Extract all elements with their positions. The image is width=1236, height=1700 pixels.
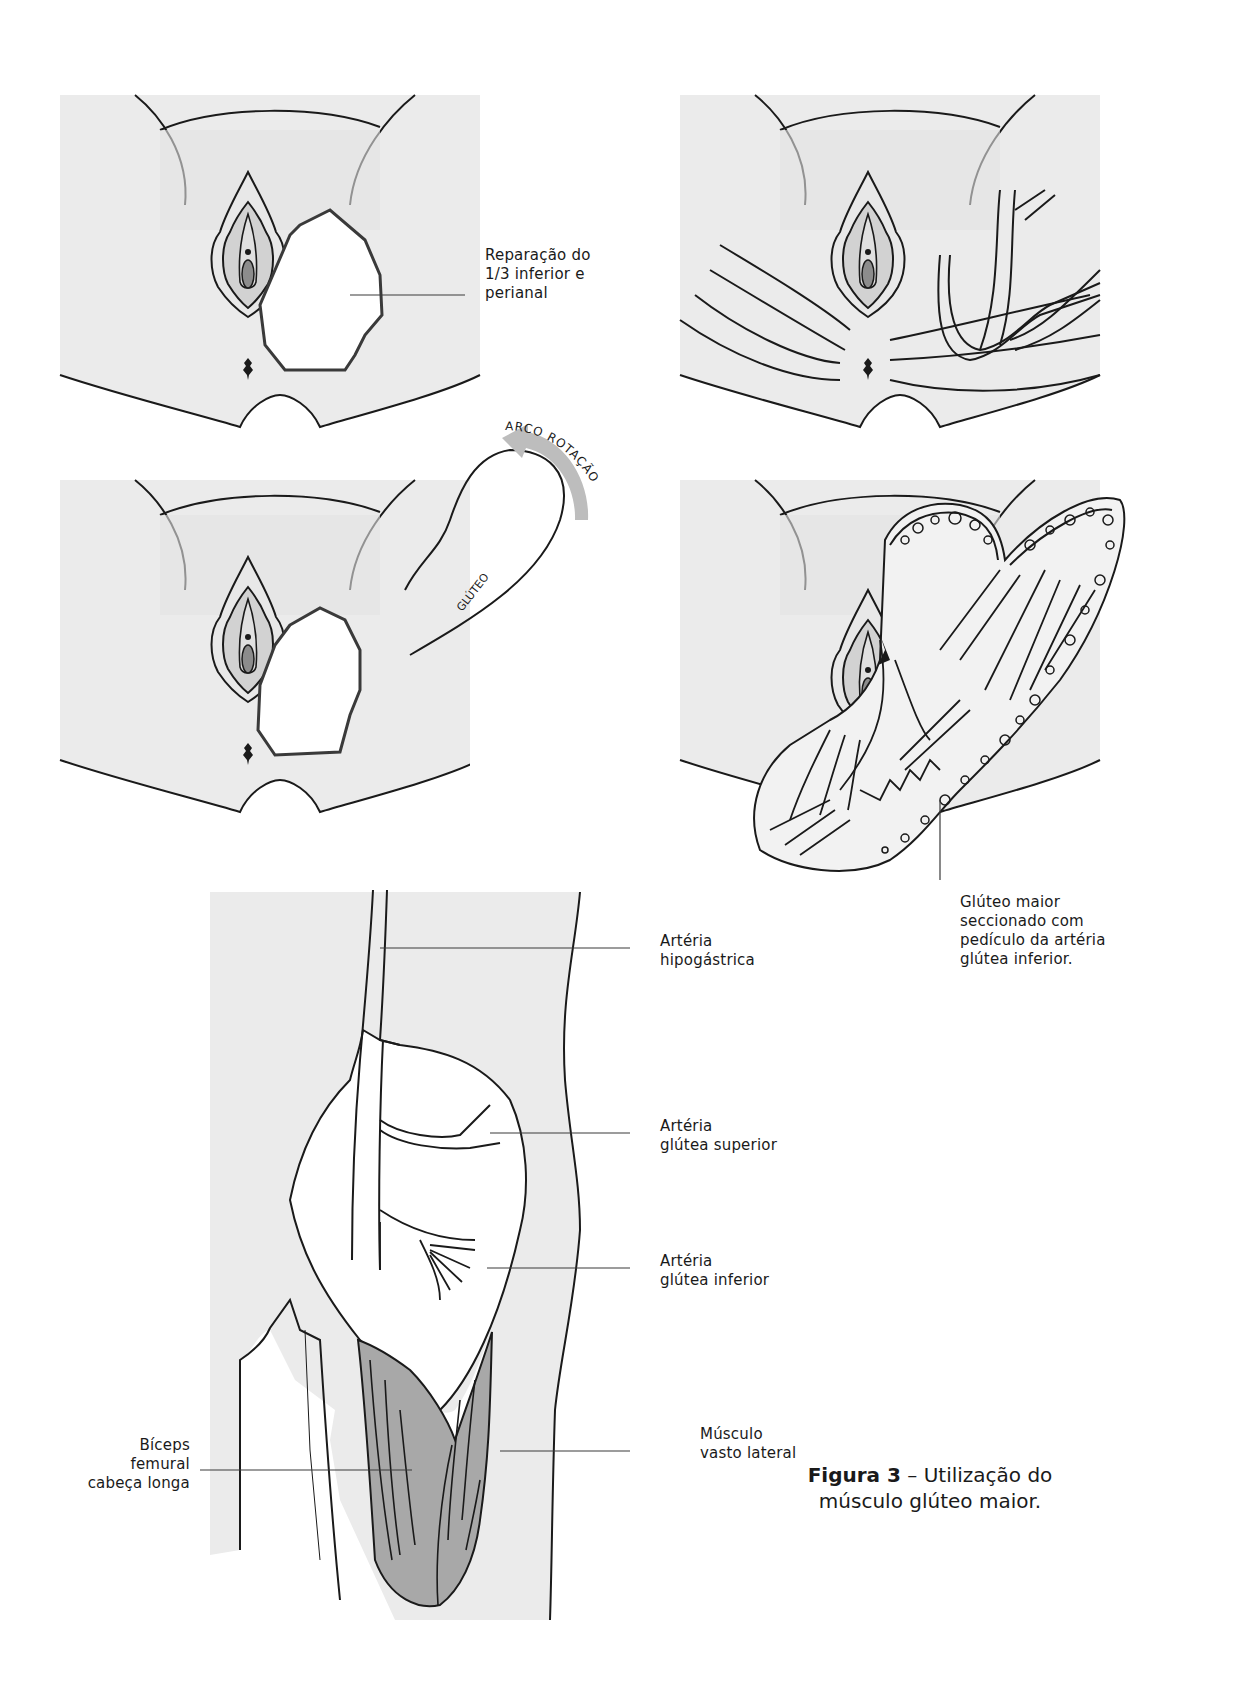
panel-3 bbox=[60, 480, 480, 815]
panel-5 bbox=[200, 890, 630, 1620]
figure-caption: Figura 3 – Utilização do músculo glúteo … bbox=[760, 1462, 1100, 1514]
panel-2 bbox=[680, 95, 1100, 430]
caption-number: Figura 3 bbox=[808, 1463, 901, 1487]
label-arteria-glutea-superior: Artéria glútea superior bbox=[660, 1117, 777, 1155]
caption-line2: músculo glúteo maior. bbox=[760, 1488, 1100, 1514]
label-biceps-femural: Bíceps femural cabeça longa bbox=[80, 1436, 190, 1493]
label-arteria-glutea-inferior: Artéria glútea inferior bbox=[660, 1252, 769, 1290]
caption-line1: Utilização do bbox=[924, 1463, 1053, 1487]
label-arteria-hipogastrica: Artéria hipogástrica bbox=[660, 932, 755, 970]
label-reparacao: Reparação do 1/3 inferior e perianal bbox=[485, 246, 591, 303]
label-gluteo-maior: Glúteo maior seccionado com pedículo da … bbox=[960, 893, 1106, 969]
label-musculo-vasto-lateral: Músculo vasto lateral bbox=[700, 1425, 796, 1463]
panel-1 bbox=[60, 95, 480, 430]
caption-separator: – bbox=[901, 1463, 924, 1487]
